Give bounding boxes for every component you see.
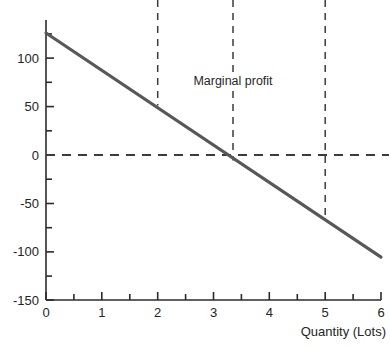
x-tick-label: 1 bbox=[98, 305, 105, 320]
x-tick-label: 0 bbox=[42, 305, 49, 320]
x-tick-label: 2 bbox=[154, 305, 161, 320]
y-axis-tick-labels: 100 50 0 -50 -100 -150 bbox=[13, 51, 39, 308]
marginal-profit-annotation: Marginal profit Marginal profit bbox=[193, 74, 273, 88]
y-tick-label: -100 bbox=[13, 244, 39, 259]
x-tick-label: 5 bbox=[322, 305, 329, 320]
marginal-profit-line bbox=[46, 33, 381, 257]
y-tick-label: 100 bbox=[17, 51, 39, 66]
chart-canvas: 100 50 0 -50 -100 -150 0 bbox=[0, 0, 390, 346]
marginal-profit-chart: 100 50 0 -50 -100 -150 0 bbox=[0, 0, 390, 346]
x-axis-major-ticks bbox=[46, 292, 381, 300]
x-axis-tick-labels: 0 1 2 3 4 5 6 bbox=[42, 305, 384, 320]
y-tick-label: -150 bbox=[13, 293, 39, 308]
x-tick-label: 4 bbox=[266, 305, 273, 320]
x-tick-label: 6 bbox=[377, 305, 384, 320]
axes-frame bbox=[46, 20, 381, 300]
x-axis-title: Quantity (Lots) bbox=[301, 324, 386, 339]
x-tick-label: 3 bbox=[210, 305, 217, 320]
marginal-profit-label: Marginal profit bbox=[193, 74, 273, 88]
y-tick-label: -50 bbox=[20, 196, 39, 211]
y-tick-label: 50 bbox=[25, 99, 39, 114]
vertical-reference-lines bbox=[158, 0, 326, 219]
y-tick-label: 0 bbox=[32, 148, 39, 163]
